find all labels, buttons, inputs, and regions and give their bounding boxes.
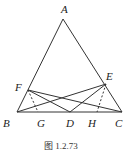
segment-FG-dashed: [28, 90, 38, 112]
segment-DF: [28, 90, 70, 112]
segment-AB: [17, 19, 63, 112]
label-H: H: [87, 117, 97, 129]
segment-AC: [63, 19, 122, 112]
segment-DE: [70, 84, 106, 112]
label-G: G: [37, 117, 45, 129]
label-E: E: [105, 70, 113, 82]
label-B: B: [3, 117, 10, 129]
label-F: F: [14, 81, 22, 93]
figure-caption: 图 1.2.73: [44, 141, 78, 150]
label-A: A: [60, 3, 68, 15]
label-D: D: [65, 117, 74, 129]
label-C: C: [115, 117, 123, 129]
geometry-diagram: A B C D E F G H 图 1.2.73: [0, 0, 129, 150]
